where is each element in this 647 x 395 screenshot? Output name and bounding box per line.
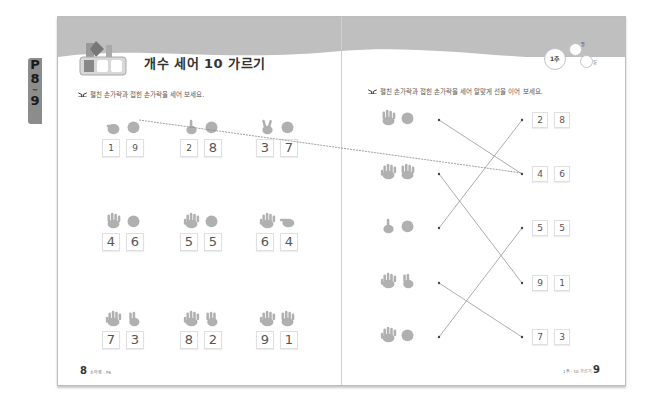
workbook-spread: 개수 세어 10 가르기 1주 월 일 펼친 손가락과 접힌 손가락을 세어 보… xyxy=(57,16,626,386)
closed-count-box: 2 xyxy=(204,331,222,349)
problem-6: 64 xyxy=(256,207,298,251)
hand-one-finger-icon xyxy=(183,118,200,135)
match-left-item-1[interactable] xyxy=(380,109,416,126)
open-hand-icon xyxy=(380,163,397,180)
fist-icon xyxy=(399,109,416,126)
match-right-item-3[interactable]: 5 5 xyxy=(532,220,570,236)
open-hand-icon xyxy=(259,310,276,327)
book-spine xyxy=(341,17,342,385)
instruction-text: 펼친 손가락과 접힌 손가락을 세어 보세요. xyxy=(90,89,204,99)
left-page-number: 8 xyxy=(80,365,87,376)
open-hand-icon xyxy=(183,310,200,327)
hand-one-finger-icon xyxy=(105,118,122,135)
open-hand-icon xyxy=(183,212,200,229)
day-badge-icon xyxy=(76,39,128,79)
open-count-box: 6 xyxy=(256,233,274,251)
month-label: 월 xyxy=(581,41,585,47)
open-count-box: 5 xyxy=(180,233,198,251)
sprout-icon xyxy=(368,89,377,94)
open-count-box: 1 xyxy=(102,139,120,157)
hand-one-finger-icon xyxy=(279,212,296,229)
hand-three-fingers-icon xyxy=(203,310,220,327)
open-count-box: 7 xyxy=(102,331,120,349)
closed-count-box: 6 xyxy=(126,233,144,251)
tab-p: P xyxy=(28,58,42,72)
problem-3: 37 xyxy=(256,113,298,157)
number-box: 8 xyxy=(554,112,570,128)
day-label: 일 xyxy=(593,59,597,65)
closed-count-box: 1 xyxy=(280,331,298,349)
open-count-box: 9 xyxy=(256,331,274,349)
closed-count-box: 9 xyxy=(126,139,144,157)
number-box: 3 xyxy=(554,329,570,345)
problem-7: 73 xyxy=(102,305,144,349)
page-range-tab: P 8 ~ 9 xyxy=(28,58,42,124)
match-left-item-4[interactable] xyxy=(380,272,416,289)
open-count-box: 4 xyxy=(102,233,120,251)
open-hand-icon xyxy=(380,272,397,289)
match-left-item-2[interactable] xyxy=(380,163,416,180)
hand-one-finger-icon xyxy=(380,217,397,234)
right-footer-text: 1주 - 10 가르기 xyxy=(563,368,592,374)
match-right-item-2[interactable]: 4 6 xyxy=(532,166,570,182)
match-right-item-4[interactable]: 9 1 xyxy=(532,275,570,291)
fist-icon xyxy=(125,118,142,135)
open-count-box: 3 xyxy=(256,139,274,157)
hand-four-fingers-icon xyxy=(279,310,296,327)
number-box: 2 xyxy=(532,112,548,128)
number-box: 4 xyxy=(532,166,548,182)
hand-two-fingers-icon xyxy=(259,118,276,135)
problem-9: 91 xyxy=(256,305,298,349)
right-page-number: 9 xyxy=(593,364,600,375)
day-input-circle[interactable] xyxy=(580,55,593,68)
fist-icon xyxy=(279,118,296,135)
closed-count-box: 4 xyxy=(280,233,298,251)
hand-four-fingers-icon xyxy=(399,163,416,180)
closed-count-box: 3 xyxy=(126,331,144,349)
open-hand-icon xyxy=(259,212,276,229)
match-right-item-1[interactable]: 2 8 xyxy=(532,112,570,128)
number-box: 6 xyxy=(554,166,570,182)
right-instruction: 펼친 손가락과 접힌 손가락을 세어 알맞게 선을 이어 보세요. xyxy=(368,86,543,96)
open-hand-icon xyxy=(380,326,397,343)
open-hand-icon xyxy=(105,310,122,327)
closed-count-box: 5 xyxy=(204,233,222,251)
number-box: 5 xyxy=(554,220,570,236)
fist-icon xyxy=(125,212,142,229)
match-right-item-5[interactable]: 7 3 xyxy=(532,329,570,345)
number-box: 7 xyxy=(532,329,548,345)
sprout-icon xyxy=(78,92,87,97)
problem-4: 46 xyxy=(102,207,144,251)
problem-5: 55 xyxy=(180,207,222,251)
tab-end: 9 xyxy=(28,94,42,108)
hand-four-fingers-icon xyxy=(380,109,397,126)
fist-icon xyxy=(203,212,220,229)
number-box: 1 xyxy=(554,275,570,291)
fist-icon xyxy=(399,217,416,234)
hand-two-fingers-icon xyxy=(399,272,416,289)
left-instruction: 펼친 손가락과 접힌 손가락을 세어 보세요. xyxy=(78,89,204,99)
problem-8: 82 xyxy=(180,305,222,349)
problem-2: 28 xyxy=(180,113,222,157)
left-footer-text: 소마셈 - P6 xyxy=(90,369,111,375)
fist-icon xyxy=(399,326,416,343)
open-hand-icon xyxy=(105,212,122,229)
number-box: 9 xyxy=(532,275,548,291)
closed-count-box: 8 xyxy=(204,139,222,157)
fist-icon xyxy=(203,118,220,135)
page-title: 개수 세어 10 가르기 xyxy=(144,53,266,72)
week-badge: 1주 xyxy=(544,48,566,70)
problem-1: 19 xyxy=(102,113,144,157)
closed-count-box: 7 xyxy=(280,139,298,157)
hand-two-fingers-icon xyxy=(125,310,142,327)
tab-start: 8 xyxy=(28,72,42,86)
match-left-item-5[interactable] xyxy=(380,326,416,343)
number-box: 5 xyxy=(532,220,548,236)
match-left-item-3[interactable] xyxy=(380,217,416,234)
instruction-text: 펼친 손가락과 접힌 손가락을 세어 알맞게 선을 이어 보세요. xyxy=(380,86,543,96)
open-count-box: 8 xyxy=(180,331,198,349)
open-count-box: 2 xyxy=(180,139,198,157)
